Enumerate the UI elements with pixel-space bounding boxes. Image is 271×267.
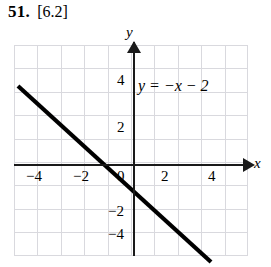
x-axis bbox=[14, 164, 250, 166]
y-tick-label-neg2: −2 bbox=[108, 203, 124, 220]
x-tick-label-neg4: −4 bbox=[26, 168, 42, 185]
figure-container: 51.[6.2] bbox=[0, 0, 271, 267]
x-tick-label-4: 4 bbox=[208, 168, 216, 185]
y-axis-label: y bbox=[126, 24, 133, 41]
equation-label: y = −x − 2 bbox=[138, 77, 209, 95]
y-tick-label-4: 4 bbox=[117, 72, 125, 89]
x-tick-label-neg2: −2 bbox=[73, 168, 89, 185]
y-axis-arrow-icon bbox=[127, 41, 141, 53]
x-tick-label-2: 2 bbox=[161, 168, 169, 185]
y-axis bbox=[133, 42, 135, 256]
y-tick-label-neg4: −4 bbox=[108, 226, 124, 243]
x-axis-label: x bbox=[254, 155, 261, 172]
y-tick-label-2: 2 bbox=[117, 119, 125, 136]
origin-label: 0 bbox=[117, 168, 125, 185]
